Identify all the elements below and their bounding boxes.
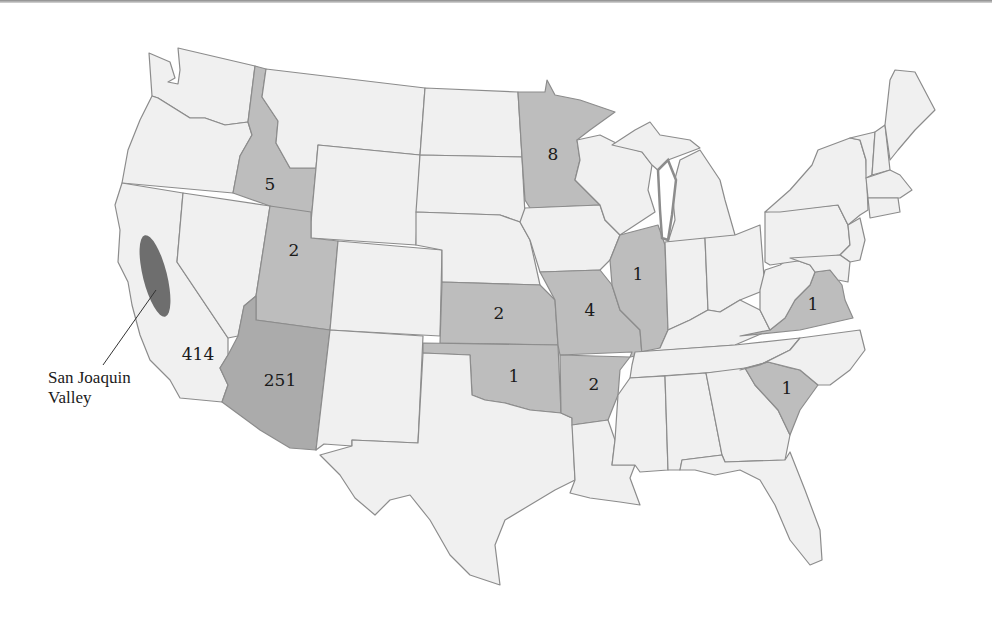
us-map: 414 251 5 2 8 2 4 1 1 2 1 1 [0, 0, 992, 620]
state-maine [885, 70, 935, 160]
count-utah: 2 [289, 240, 300, 260]
state-ohio [705, 225, 765, 312]
state-michigan-lower [668, 150, 735, 242]
state-north-dakota [420, 88, 522, 157]
state-connecticut [868, 198, 900, 218]
count-virginia: 1 [808, 294, 819, 314]
count-illinois: 1 [633, 264, 644, 284]
annotation-label: San Joaquin Valley [48, 368, 131, 408]
state-south-dakota [416, 155, 525, 222]
count-oklahoma: 1 [509, 366, 520, 386]
annotation-line-1: San Joaquin [48, 368, 131, 388]
count-arkansas: 2 [589, 374, 600, 394]
count-california: 414 [182, 344, 214, 364]
count-idaho: 5 [265, 174, 276, 194]
state-colorado [330, 241, 442, 336]
count-minnesota: 8 [548, 144, 559, 164]
annotation-line-2: Valley [48, 388, 131, 408]
state-florida [680, 452, 822, 565]
state-wyoming [311, 145, 420, 245]
state-new-mexico [316, 330, 423, 450]
state-mississippi [612, 376, 668, 472]
count-missouri: 4 [585, 300, 596, 320]
count-arizona: 251 [264, 370, 296, 390]
count-kansas: 2 [494, 303, 505, 323]
count-south-carolina: 1 [782, 378, 793, 398]
